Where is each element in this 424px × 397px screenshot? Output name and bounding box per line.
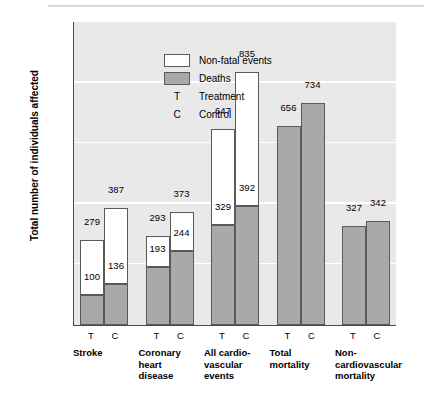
x-category-line: disease bbox=[139, 370, 181, 382]
bar-total-label: 656 bbox=[281, 102, 297, 113]
bar-segment-deaths bbox=[146, 267, 170, 325]
legend-item: TTreatment bbox=[164, 88, 272, 105]
gridline-1000 bbox=[74, 21, 396, 23]
x-category-line: events bbox=[204, 370, 250, 382]
x-arm-label-t: T bbox=[154, 330, 160, 341]
x-category-line: All cardio- bbox=[204, 347, 250, 359]
bar-segment-deaths bbox=[301, 103, 325, 325]
x-category-label: Non-cardiovascularmortality bbox=[335, 347, 402, 382]
legend-item: CControl bbox=[164, 106, 272, 123]
bar-segment-deaths bbox=[366, 221, 390, 325]
legend-label: Treatment bbox=[199, 91, 244, 102]
x-arm-label-c: C bbox=[374, 330, 381, 341]
bar-segment-deaths bbox=[104, 284, 128, 325]
bar-total-label: 342 bbox=[370, 197, 386, 208]
bar-segment-deaths bbox=[342, 226, 366, 325]
x-arm-label-c: C bbox=[177, 330, 184, 341]
bar-deaths-label: 100 bbox=[84, 271, 100, 282]
bar-total-label: 327 bbox=[346, 202, 362, 213]
bar-deaths-label: 392 bbox=[239, 182, 255, 193]
bar-total-label: 734 bbox=[305, 79, 321, 90]
x-category-line: mortality bbox=[270, 359, 310, 371]
bar bbox=[342, 226, 366, 325]
bar-total-label: 373 bbox=[174, 188, 190, 199]
legend-item: Non-fatal events bbox=[164, 52, 272, 69]
bar-segment-nonfatal bbox=[80, 240, 104, 294]
legend-item: Deaths bbox=[164, 70, 272, 87]
bar-segment-deaths bbox=[80, 295, 104, 325]
x-category-line: Coronary bbox=[139, 347, 181, 359]
bar-segment-deaths bbox=[235, 206, 259, 325]
legend-swatch-white bbox=[164, 54, 190, 67]
x-category-line: Non- bbox=[335, 347, 402, 359]
legend-swatch-grey bbox=[164, 72, 190, 85]
bar-total-label: 279 bbox=[84, 216, 100, 227]
x-arm-label-t: T bbox=[285, 330, 291, 341]
x-category-label: Stroke bbox=[73, 347, 103, 359]
x-arm-label-c: C bbox=[308, 330, 315, 341]
x-category-line: vascular bbox=[204, 359, 250, 371]
legend-label: Control bbox=[199, 109, 231, 120]
legend-key-t: T bbox=[164, 91, 190, 102]
bar bbox=[301, 103, 325, 325]
bar-deaths-label: 193 bbox=[150, 243, 166, 254]
x-category-label: All cardio-vascularevents bbox=[204, 347, 250, 382]
x-category-line: Stroke bbox=[73, 347, 103, 359]
x-category-line: cardiovascular bbox=[335, 359, 402, 371]
legend-label: Non-fatal events bbox=[199, 55, 272, 66]
x-category-line: mortality bbox=[335, 370, 402, 382]
x-category-label: Totalmortality bbox=[270, 347, 310, 370]
x-arm-label-t: T bbox=[88, 330, 94, 341]
bar-total-label: 387 bbox=[108, 184, 124, 195]
bar bbox=[366, 221, 390, 325]
x-arm-label-t: T bbox=[350, 330, 356, 341]
x-arm-label-c: C bbox=[112, 330, 119, 341]
x-arm-label-c: C bbox=[243, 330, 250, 341]
bar-segment-deaths bbox=[277, 126, 301, 325]
bar-chart: Total number of individuals affected 020… bbox=[0, 0, 424, 397]
bar bbox=[277, 126, 301, 325]
bar bbox=[211, 129, 235, 325]
plot-area: 2791003871362931933732446473298353926567… bbox=[73, 22, 396, 326]
legend-label: Deaths bbox=[199, 73, 231, 84]
bar bbox=[80, 240, 104, 325]
x-category-line: Total bbox=[270, 347, 310, 359]
bar-segment-deaths bbox=[170, 251, 194, 325]
bar-deaths-label: 136 bbox=[108, 260, 124, 271]
chart-legend: Non-fatal eventsDeathsTTreatmentCControl bbox=[164, 52, 272, 124]
legend-key-c: C bbox=[164, 109, 190, 120]
x-category-label: Coronaryheartdisease bbox=[139, 347, 181, 382]
bar-segment-nonfatal bbox=[104, 208, 128, 284]
bar-deaths-label: 329 bbox=[215, 201, 231, 212]
bar-deaths-label: 244 bbox=[174, 227, 190, 238]
bar-total-label: 293 bbox=[150, 212, 166, 223]
bar-segment-deaths bbox=[211, 225, 235, 325]
x-arm-label-t: T bbox=[219, 330, 225, 341]
x-category-line: heart bbox=[139, 359, 181, 371]
